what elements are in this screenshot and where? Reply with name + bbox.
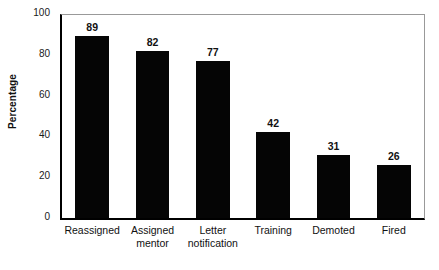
- bar-value-label: 26: [365, 150, 423, 162]
- x-axis-label-line: mentor: [122, 237, 182, 250]
- bar-4[interactable]: 42: [256, 14, 290, 218]
- bar-6[interactable]: 26: [377, 14, 411, 218]
- bar-value-label: 42: [244, 117, 302, 129]
- bar-value-label: 89: [63, 21, 121, 33]
- y-tick-label: 60: [10, 89, 50, 100]
- x-axis-label-line: Reassigned: [62, 224, 122, 237]
- bar-rect: [317, 155, 351, 218]
- bar-chart-figure: Percentage 020406080100 898277423126 Rea…: [0, 0, 439, 270]
- x-axis-label-2: Assignedmentor: [122, 224, 182, 250]
- bar-value-label: 31: [305, 140, 363, 152]
- x-axis-label-line: Demoted: [303, 224, 363, 237]
- x-axis-label-6: Fired: [364, 224, 424, 237]
- bar-2[interactable]: 82: [136, 14, 170, 218]
- bar-1[interactable]: 89: [75, 14, 109, 218]
- x-axis-label-line: Fired: [364, 224, 424, 237]
- x-axis-label-line: Training: [243, 224, 303, 237]
- bar-rect: [136, 51, 170, 218]
- y-tick-label: 80: [10, 48, 50, 59]
- bar-value-label: 77: [184, 46, 242, 58]
- bars-layer: 898277423126: [62, 14, 424, 218]
- bar-3[interactable]: 77: [196, 14, 230, 218]
- y-tick-label: 20: [10, 170, 50, 181]
- bar-5[interactable]: 31: [317, 14, 351, 218]
- bar-value-label: 82: [124, 36, 182, 48]
- x-axis-label-line: Letter: [183, 224, 243, 237]
- bar-rect: [75, 36, 109, 218]
- bar-rect: [377, 165, 411, 218]
- x-axis-label-4: Training: [243, 224, 303, 237]
- x-axis-label-line: Assigned: [122, 224, 182, 237]
- y-tick-label: 0: [10, 211, 50, 222]
- x-axis-label-5: Demoted: [303, 224, 363, 237]
- y-tick-label: 100: [10, 7, 50, 18]
- bar-rect: [256, 132, 290, 218]
- x-axis-labels: ReassignedAssignedmentorLetternotificati…: [62, 224, 424, 264]
- x-axis-label-line: notification: [183, 237, 243, 250]
- bar-rect: [196, 61, 230, 218]
- x-axis-label-3: Letternotification: [183, 224, 243, 250]
- x-axis-label-1: Reassigned: [62, 224, 122, 237]
- y-tick-label: 40: [10, 129, 50, 140]
